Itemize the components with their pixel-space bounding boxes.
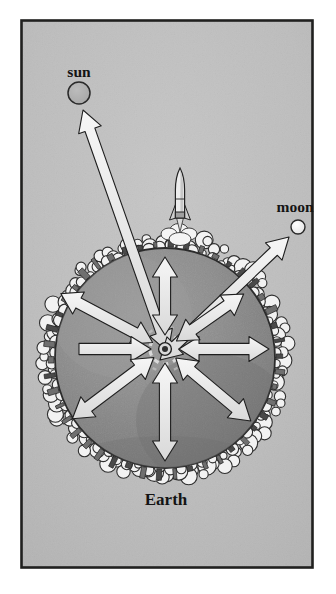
rim-building-shape [44, 341, 56, 348]
rim-building [44, 341, 56, 348]
figure-root: sun moon Earth [0, 0, 336, 594]
moon [291, 220, 305, 234]
earth-label: Earth [145, 490, 188, 509]
rocket-nozzle [175, 212, 184, 218]
moon-label: moon [276, 198, 313, 215]
earth-core [159, 343, 172, 356]
rim-building-shape [173, 468, 177, 479]
rim-building-shape [137, 245, 142, 250]
rim-building [154, 242, 158, 248]
rim-building [48, 357, 54, 364]
rim-cloud-puff [220, 245, 228, 253]
rim-building-shape [154, 242, 158, 248]
rim-building [275, 369, 285, 375]
rim-building [276, 354, 283, 359]
moon-disc [291, 220, 305, 234]
rim-building [156, 469, 162, 481]
rim-cloud-puff [242, 445, 252, 455]
rim-building-shape [276, 354, 283, 359]
rim-building-shape [275, 369, 285, 375]
sun-disc [68, 82, 90, 104]
rim-building-shape [187, 466, 193, 472]
rim-cloud-puff [258, 279, 267, 288]
rim-cloud-puff [272, 407, 281, 416]
rim-building [187, 466, 193, 472]
sun-label: sun [67, 63, 91, 80]
rim-cloud-puff [277, 399, 285, 407]
illustration-canvas: sun moon Earth [0, 0, 336, 594]
rim-building-shape [48, 357, 54, 364]
sun [68, 82, 90, 104]
rim-building [173, 468, 177, 479]
rim-building [137, 245, 142, 250]
rim-building-shape [156, 469, 162, 481]
rim-cloud-puff [199, 470, 208, 479]
core-dot [162, 346, 168, 352]
